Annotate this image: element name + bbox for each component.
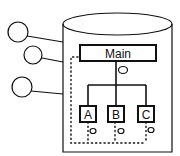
child-c-port-circle [148,128,154,133]
child-b-port-circle [118,129,124,134]
child-node-c: C [138,106,154,122]
child-node-a: A [80,106,96,122]
port-connector-1 [27,36,63,42]
diagram-canvas: Main A B C [0,0,180,156]
port-connector-2 [42,58,63,62]
cylinder-top [63,13,172,35]
port-connector-3 [31,91,63,94]
port-circle-1 [8,22,28,42]
child-node-c-label: C [142,108,151,122]
tree-connectors [88,61,146,106]
child-node-a-label: A [84,108,92,122]
cylinder-body [63,24,172,152]
child-node-b: B [108,106,124,122]
main-node-port-circle [119,67,128,74]
external-ports [8,22,63,97]
dotted-boundary [71,57,146,143]
port-circle-2 [24,46,42,64]
port-circle-3 [12,77,32,97]
child-a-port-circle [90,129,96,134]
child-node-b-label: B [112,108,120,122]
main-node-label: Main [105,47,131,61]
main-node: Main [80,45,156,61]
